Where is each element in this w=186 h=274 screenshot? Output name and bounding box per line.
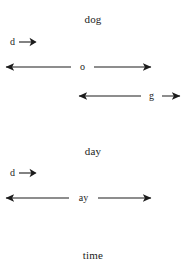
arrow-right-icon xyxy=(19,37,37,47)
segment-dog-d-label: d xyxy=(10,37,15,47)
word-title-day: day xyxy=(0,146,186,157)
segment-day-d-label: d xyxy=(10,168,15,178)
phonics-arrow-diagram: { "figure": { "background_color": "#ffff… xyxy=(0,0,186,274)
word-title-time: time xyxy=(0,250,186,261)
segment-dog-o-label: o xyxy=(71,62,94,72)
segment-dog-d: d xyxy=(10,37,37,47)
arrow-right-icon xyxy=(19,168,37,178)
segment-day-ay-label: ay xyxy=(69,193,98,203)
segment-day-d: d xyxy=(10,168,37,178)
word-title-dog: dog xyxy=(0,14,186,25)
segment-dog-g-label: g xyxy=(141,91,162,101)
